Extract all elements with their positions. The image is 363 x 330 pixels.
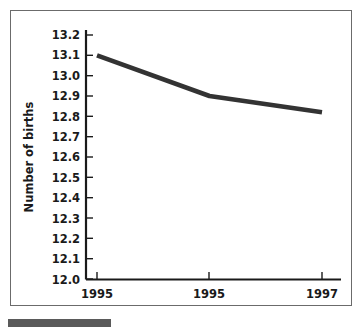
y-axis-title: Number of births: [22, 101, 36, 212]
x-tick-label: 1995: [81, 287, 113, 301]
y-tick-label: 12.3: [52, 212, 80, 226]
y-tick-label: 12.9: [52, 89, 80, 103]
y-tick-label: 12.0: [52, 273, 80, 287]
y-tick-label: 12.5: [52, 171, 80, 185]
y-tick-label: 12.7: [52, 130, 80, 144]
chart-figure: Number of births 13.2 13.1 13.0 12.9 12.…: [0, 0, 363, 330]
line-chart: Number of births 13.2 13.1 13.0 12.9 12.…: [0, 0, 363, 330]
x-tick-label: 1995: [193, 287, 225, 301]
y-tick-label: 12.4: [52, 191, 80, 205]
source-bar: [8, 319, 111, 327]
y-tick-label: 13.0: [52, 69, 80, 83]
x-axis-ticks: [97, 272, 322, 279]
y-tick-label: 13.2: [52, 28, 80, 42]
y-tick-label: 12.6: [52, 150, 80, 164]
y-tick-label: 12.8: [52, 110, 80, 124]
series-line-number-of-births: [97, 55, 322, 112]
y-axis-tick-labels: 13.2 13.1 13.0 12.9 12.8 12.7 12.6 12.5 …: [52, 28, 80, 287]
y-tick-label: 12.2: [52, 232, 80, 246]
y-tick-label: 13.1: [52, 48, 80, 62]
x-tick-label: 1997: [306, 287, 338, 301]
y-tick-label: 12.1: [52, 252, 80, 266]
x-axis-tick-labels: 1995 1995 1997: [81, 287, 338, 301]
